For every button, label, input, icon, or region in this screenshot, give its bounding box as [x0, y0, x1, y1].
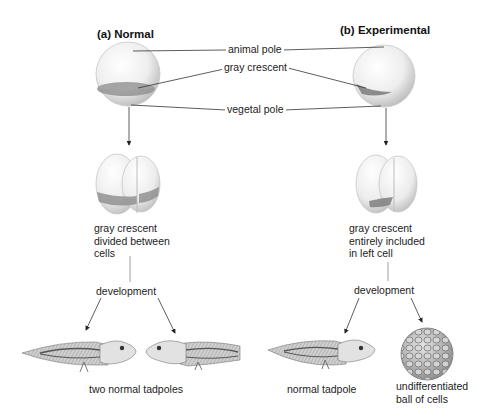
tadpole-experimental	[268, 340, 375, 369]
caption-line: entirely included	[349, 235, 425, 248]
normal-two-cell-embryo	[96, 154, 160, 214]
experimental-fertilized-egg	[353, 45, 415, 107]
caption-line: ball of cells	[396, 393, 468, 406]
label-animal-pole: animal pole	[226, 43, 284, 55]
normal-cleavage-caption: gray crescent divided between cells	[94, 222, 170, 260]
normal-fertilized-egg	[96, 42, 160, 106]
caption-line: gray crescent	[349, 222, 425, 235]
experimental-right-result-caption: undifferentiated ball of cells	[396, 380, 468, 405]
undifferentiated-cell-ball	[401, 328, 453, 380]
tadpole-normal-left	[22, 341, 136, 372]
caption-line: cells	[94, 247, 170, 260]
normal-development-label: development	[96, 285, 156, 298]
panel-a-heading: (a) Normal	[97, 28, 154, 40]
arrow-experimental-left	[345, 298, 359, 333]
caption-line: gray crescent	[94, 222, 170, 235]
panel-b-heading: (b) Experimental	[340, 24, 430, 36]
experimental-cleavage-caption: gray crescent entirely included in left …	[349, 222, 425, 260]
arrow-normal-left	[86, 298, 101, 330]
leader-lines	[131, 47, 384, 110]
caption-line: divided between	[94, 235, 170, 248]
normal-result-caption: two normal tadpoles	[89, 383, 183, 396]
caption-line: in left cell	[349, 247, 425, 260]
label-vegetal-pole: vegetal pole	[225, 103, 286, 115]
arrow-experimental-right	[411, 298, 422, 322]
tadpole-normal-right	[146, 341, 240, 370]
experimental-two-cell-embryo	[356, 155, 417, 213]
caption-line: undifferentiated	[396, 380, 468, 393]
experimental-left-result-caption: normal tadpole	[287, 383, 356, 396]
arrow-normal-right	[158, 298, 175, 333]
label-gray-crescent: gray crescent	[222, 61, 289, 73]
experimental-development-label: development	[354, 284, 414, 297]
